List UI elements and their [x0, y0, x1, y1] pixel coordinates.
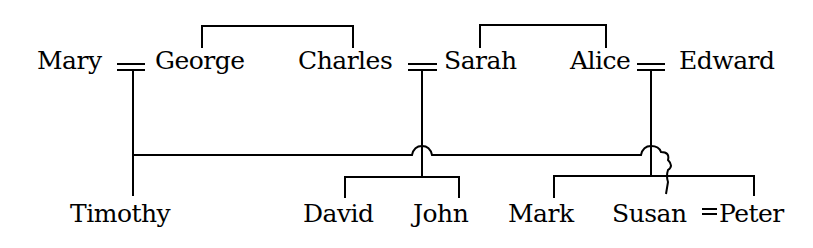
- person-timothy: Timothy: [70, 201, 170, 226]
- person-john: John: [413, 201, 468, 226]
- person-charles: Charles: [298, 48, 392, 73]
- sibling-bracket-sarah-alice: [480, 25, 606, 48]
- person-susan: Susan: [612, 201, 687, 226]
- link-line-timothy-to-susan: [133, 146, 671, 194]
- person-david: David: [303, 201, 374, 226]
- person-mark: Mark: [508, 201, 574, 226]
- person-george: George: [155, 48, 245, 73]
- person-mary: Mary: [37, 48, 102, 73]
- sibling-bracket-mark-peter: [554, 176, 754, 198]
- sibling-bracket-david-john: [345, 177, 459, 198]
- sibling-bracket-george-charles: [202, 26, 353, 48]
- person-peter: Peter: [719, 201, 784, 226]
- person-alice: Alice: [570, 48, 630, 73]
- family-tree-diagram: Mary George Charles Sarah Alice Edward T…: [0, 0, 813, 248]
- person-sarah: Sarah: [444, 48, 517, 73]
- person-edward: Edward: [679, 48, 775, 73]
